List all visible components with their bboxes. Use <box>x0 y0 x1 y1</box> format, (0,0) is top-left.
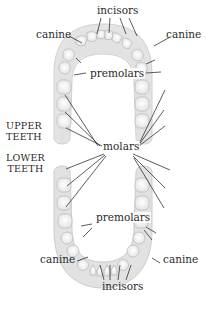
label-upper-teeth: UPPER TEETH <box>6 120 42 142</box>
label-lower-line1: LOWER <box>6 152 45 163</box>
label-lower-teeth: LOWER TEETH <box>6 152 45 174</box>
label-upper-line2: TEETH <box>6 131 42 142</box>
label-lower-canine-right: canine <box>163 254 198 265</box>
label-upper-premolars: premolars <box>89 68 145 79</box>
label-upper-canine-right: canine <box>166 29 201 40</box>
label-upper-incisors: incisors <box>97 5 138 16</box>
label-upper-line1: UPPER <box>6 120 42 131</box>
label-lower-incisors: incisors <box>102 281 143 292</box>
dental-diagram: incisors canine canine premolars UPPER T… <box>0 0 206 311</box>
label-lower-canine-left: canine <box>40 254 75 265</box>
label-molars: molars <box>102 141 140 152</box>
label-lower-line2: TEETH <box>8 163 44 174</box>
label-upper-canine-left: canine <box>36 29 71 40</box>
label-lower-premolars: premolars <box>95 212 151 223</box>
